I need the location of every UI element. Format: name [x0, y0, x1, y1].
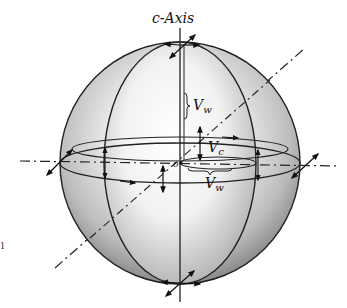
origin-label: o: [173, 159, 179, 169]
margin-mark: l: [1, 240, 4, 251]
c-axis-label: c-Axis: [152, 10, 194, 26]
sphere-velocity-diagram: c-Axis Vw Vc Vw o: [0, 0, 347, 308]
origin-point: [179, 161, 182, 164]
